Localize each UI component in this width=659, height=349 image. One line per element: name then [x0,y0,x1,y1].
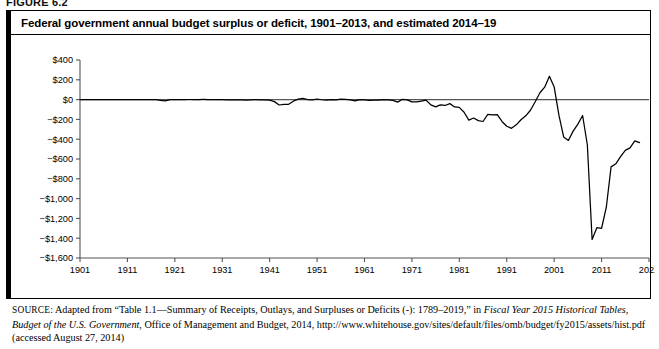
budget-deficit-line-chart: $400$200$0−$200−$400−$600−$800−$1,000−$1… [11,35,655,299]
data-series-line [80,76,640,239]
figure-box: Federal government annual budget surplus… [6,10,651,299]
y-tick-label: −$1,600 [40,253,73,263]
y-tick-label: −$600 [47,154,73,164]
chart-plot-area: $400$200$0−$200−$400−$600−$800−$1,000−$1… [11,35,650,298]
source-note: SOURCE: Adapted from “Table 1.1—Summary … [12,303,656,345]
x-tick-label: 1941 [259,265,279,275]
figure-label: FIGURE 6.2 [6,0,68,8]
x-tick-label: 1991 [497,265,517,275]
x-tick-label: 1931 [212,265,232,275]
y-tick-label: −$1,400 [40,234,73,244]
source-line1-a: Adapted from “Table 1.1—Summary of Recei… [53,304,484,315]
source-line2-b: , Office of Management and Budget, 2014,… [139,319,629,330]
y-tick-label: −$200 [47,115,73,125]
source-line1-italic: Fiscal Year 2015 Historical Tables, [484,304,628,315]
x-tick-label: 1961 [354,265,374,275]
source-line2-italic: Budget of the U.S. Government [12,319,139,330]
figure-title-bar: Federal government annual budget surplus… [11,11,650,35]
x-tick-label: 1981 [449,265,469,275]
x-tick-label: 2011 [592,265,612,275]
source-label: SOURCE: [12,305,53,315]
x-tick-label: 1921 [165,265,185,275]
x-tick-label: 2021 [639,265,655,275]
x-tick-label: 1951 [307,265,327,275]
y-tick-label: $0 [63,95,73,105]
x-tick-label: 1971 [402,265,422,275]
x-tick-label: 2001 [544,265,564,275]
y-tick-label: $200 [53,75,73,85]
page-title: Federal government annual budget surplus… [21,17,496,29]
y-tick-label: −$400 [47,135,73,145]
y-tick-label: −$1,000 [40,194,73,204]
y-tick-label: −$1,200 [40,214,73,224]
y-tick-label: −$800 [47,174,73,184]
x-tick-label: 1911 [118,265,138,275]
x-tick-label: 1901 [70,265,90,275]
y-tick-label: $400 [53,55,73,65]
